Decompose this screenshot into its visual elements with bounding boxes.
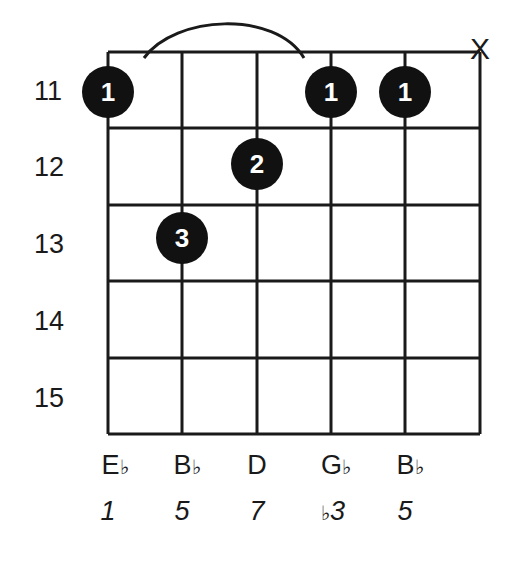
accidental: ♭ xyxy=(120,456,129,478)
degree-value: 5 xyxy=(174,496,189,526)
fret-number-14: 14 xyxy=(34,308,94,335)
degree-value: 5 xyxy=(397,496,412,526)
degree-label: 5 xyxy=(375,498,435,527)
accidental: ♭ xyxy=(192,456,201,478)
finger-dot: 2 xyxy=(231,138,283,190)
note-name: G xyxy=(321,450,342,480)
finger-dot: 1 xyxy=(305,66,357,118)
note-name: D xyxy=(247,450,267,480)
degree-label: 1 xyxy=(78,498,138,527)
mute-marker: X xyxy=(470,34,490,64)
note-name: E xyxy=(101,450,119,480)
accidental: ♭ xyxy=(342,456,351,478)
accidental: ♭ xyxy=(415,456,424,478)
note-label: G♭ xyxy=(306,452,366,481)
note-label: D xyxy=(227,452,287,481)
fret-number-13: 13 xyxy=(34,231,94,258)
fret-number-15: 15 xyxy=(34,385,94,412)
finger-dot: 3 xyxy=(156,212,208,264)
degree-value: 7 xyxy=(249,496,264,526)
finger-dot: 1 xyxy=(82,66,134,118)
finger-dot: 1 xyxy=(379,66,431,118)
degree-label: 5 xyxy=(152,498,212,527)
degree-value: 3 xyxy=(330,496,345,526)
note-name: B xyxy=(396,450,414,480)
note-label: E♭ xyxy=(85,452,145,481)
fret-number-12: 12 xyxy=(34,154,94,181)
degree-label: 7 xyxy=(227,498,287,527)
note-label: B♭ xyxy=(157,452,217,481)
degree-label: ♭3 xyxy=(303,498,363,527)
note-label: B♭ xyxy=(380,452,440,481)
note-name: B xyxy=(173,450,191,480)
degree-prefix: ♭ xyxy=(321,502,330,524)
degree-value: 1 xyxy=(100,496,115,526)
